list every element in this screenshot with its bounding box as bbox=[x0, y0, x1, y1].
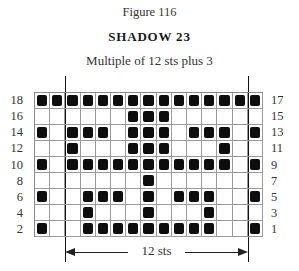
stitch-cell-filled bbox=[65, 141, 80, 157]
pattern-title: SHADOW 23 bbox=[0, 29, 299, 45]
stitch-cell-filled bbox=[81, 189, 96, 205]
stitch-cell-empty bbox=[81, 109, 96, 125]
stitch-cell-filled bbox=[233, 93, 248, 109]
stitch-cell-empty bbox=[126, 205, 141, 221]
stitch-cell-empty bbox=[217, 189, 232, 205]
stitch-cell-filled bbox=[157, 125, 172, 141]
stitch-cell-filled bbox=[172, 93, 187, 109]
stitch-cell-empty bbox=[50, 173, 65, 189]
row-label-left: 14 bbox=[11, 124, 24, 140]
stitch-cell-empty bbox=[65, 221, 80, 237]
stitch-cell-filled bbox=[248, 221, 263, 237]
stitch-cell-empty bbox=[111, 109, 126, 125]
stitch-cell-empty bbox=[65, 109, 80, 125]
stitch-cell-filled bbox=[126, 125, 141, 141]
stitch-cell-filled bbox=[141, 205, 156, 221]
stitch-cell-filled bbox=[172, 157, 187, 173]
stitch-cell-filled bbox=[217, 93, 232, 109]
stitch-cell-filled bbox=[202, 221, 217, 237]
stitch-cell-empty bbox=[172, 109, 187, 125]
stitch-cell-empty bbox=[172, 141, 187, 157]
stitch-cell-empty bbox=[35, 109, 50, 125]
stitch-cell-empty bbox=[35, 173, 50, 189]
stitch-cell-empty bbox=[217, 109, 232, 125]
stitch-cell-filled bbox=[172, 189, 187, 205]
row-label-left: 18 bbox=[11, 92, 24, 108]
stitch-cell-empty bbox=[96, 205, 111, 221]
stitch-cell-empty bbox=[217, 205, 232, 221]
stitch-cell-empty bbox=[233, 125, 248, 141]
stitch-cell-empty bbox=[217, 221, 232, 237]
row-label-right: 5 bbox=[271, 189, 277, 205]
stitch-cell-filled bbox=[202, 93, 217, 109]
stitch-cell-empty bbox=[50, 205, 65, 221]
repeat-dimension: 12 sts bbox=[65, 245, 248, 259]
stitch-cell-filled bbox=[157, 141, 172, 157]
stitch-cell-empty bbox=[233, 221, 248, 237]
stitch-cell-filled bbox=[50, 93, 65, 109]
stitch-cell-empty bbox=[248, 205, 263, 221]
stitch-cell-filled bbox=[126, 93, 141, 109]
stitch-cell-filled bbox=[157, 157, 172, 173]
stitch-cell-filled bbox=[81, 221, 96, 237]
stitch-cell-filled bbox=[35, 157, 50, 173]
stitch-cell-filled bbox=[187, 93, 202, 109]
stitch-cell-empty bbox=[111, 125, 126, 141]
stitch-cell-filled bbox=[81, 93, 96, 109]
row-label-left: 8 bbox=[17, 173, 23, 189]
pattern-subtitle: Multiple of 12 sts plus 3 bbox=[0, 53, 299, 69]
repeat-label: 12 sts bbox=[65, 243, 248, 259]
stitch-cell-empty bbox=[126, 173, 141, 189]
stitch-cell-filled bbox=[126, 109, 141, 125]
stitch-cell-filled bbox=[248, 157, 263, 173]
row-label-left: 2 bbox=[17, 221, 23, 237]
knitting-chart-grid bbox=[34, 92, 263, 237]
stitch-cell-filled bbox=[111, 189, 126, 205]
row-label-right: 17 bbox=[271, 92, 284, 108]
stitch-cell-empty bbox=[65, 173, 80, 189]
stitch-cell-filled bbox=[172, 221, 187, 237]
stitch-cell-empty bbox=[50, 125, 65, 141]
stitch-cell-filled bbox=[157, 221, 172, 237]
stitch-cell-filled bbox=[248, 93, 263, 109]
row-label-right: 9 bbox=[271, 157, 277, 173]
stitch-cell-filled bbox=[96, 221, 111, 237]
row-label-left: 4 bbox=[17, 205, 23, 221]
stitch-cell-filled bbox=[35, 189, 50, 205]
stitch-cell-empty bbox=[50, 109, 65, 125]
stitch-cell-empty bbox=[187, 109, 202, 125]
stitch-cell-filled bbox=[126, 157, 141, 173]
stitch-cell-filled bbox=[81, 205, 96, 221]
stitch-cell-empty bbox=[187, 205, 202, 221]
stitch-cell-filled bbox=[96, 189, 111, 205]
figure-label: Figure 116 bbox=[0, 5, 299, 20]
stitch-cell-empty bbox=[96, 109, 111, 125]
stitch-cell-filled bbox=[141, 189, 156, 205]
stitch-cell-empty bbox=[50, 141, 65, 157]
stitch-cell-empty bbox=[172, 173, 187, 189]
stitch-cell-filled bbox=[65, 125, 80, 141]
stitch-cell-filled bbox=[35, 221, 50, 237]
stitch-cell-filled bbox=[157, 109, 172, 125]
stitch-cell-empty bbox=[248, 141, 263, 157]
stitch-cell-filled bbox=[126, 141, 141, 157]
stitch-cell-filled bbox=[202, 205, 217, 221]
stitch-cell-empty bbox=[111, 173, 126, 189]
stitch-cell-empty bbox=[96, 173, 111, 189]
stitch-cell-empty bbox=[65, 205, 80, 221]
stitch-cell-empty bbox=[202, 173, 217, 189]
stitch-cell-empty bbox=[157, 189, 172, 205]
row-label-right: 1 bbox=[271, 221, 277, 237]
stitch-cell-empty bbox=[233, 173, 248, 189]
stitch-cell-filled bbox=[248, 125, 263, 141]
stitch-cell-filled bbox=[217, 125, 232, 141]
stitch-cell-filled bbox=[111, 93, 126, 109]
stitch-cell-empty bbox=[126, 189, 141, 205]
stitch-cell-filled bbox=[217, 141, 232, 157]
row-label-left: 16 bbox=[11, 108, 24, 124]
stitch-cell-filled bbox=[141, 109, 156, 125]
stitch-cell-filled bbox=[81, 157, 96, 173]
stitch-cell-empty bbox=[35, 141, 50, 157]
stitch-cell-filled bbox=[141, 157, 156, 173]
stitch-cell-empty bbox=[65, 189, 80, 205]
